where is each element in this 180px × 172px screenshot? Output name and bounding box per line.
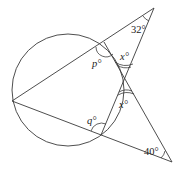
- label-q: q°: [87, 115, 97, 126]
- angle-arc-x-bottom-1: [118, 93, 134, 95]
- angle-arc-x-bottom-2: [119, 90, 132, 92]
- label-p: p°: [91, 58, 102, 69]
- angle-arc-p: [96, 47, 113, 57]
- label-angle-40: 40°: [144, 146, 159, 157]
- label-x-top: x°: [119, 51, 130, 62]
- angle-arc-40: [161, 151, 165, 158]
- line-upper-point-to-bottom-apex: [104, 42, 172, 162]
- secant-upper: [12, 8, 154, 101]
- label-angle-32: 32°: [131, 24, 146, 35]
- label-x-bottom: x°: [118, 99, 129, 110]
- angle-arc-32: [143, 16, 149, 21]
- geometry-diagram: p° q° x° x° 32° 40°: [0, 0, 180, 172]
